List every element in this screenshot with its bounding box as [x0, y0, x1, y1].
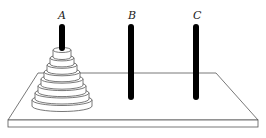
peg-c-rod: [193, 24, 199, 100]
peg-c-label: C: [193, 9, 202, 22]
peg-a-rod: [59, 24, 65, 51]
board-front-edge: [8, 120, 258, 127]
disk-stack-a: [32, 48, 92, 112]
tower-of-hanoi-diagram: B C A: [0, 0, 266, 138]
peg-b-label: B: [127, 9, 136, 22]
peg-b-rod: [128, 24, 134, 100]
peg-a-label: A: [57, 9, 66, 22]
